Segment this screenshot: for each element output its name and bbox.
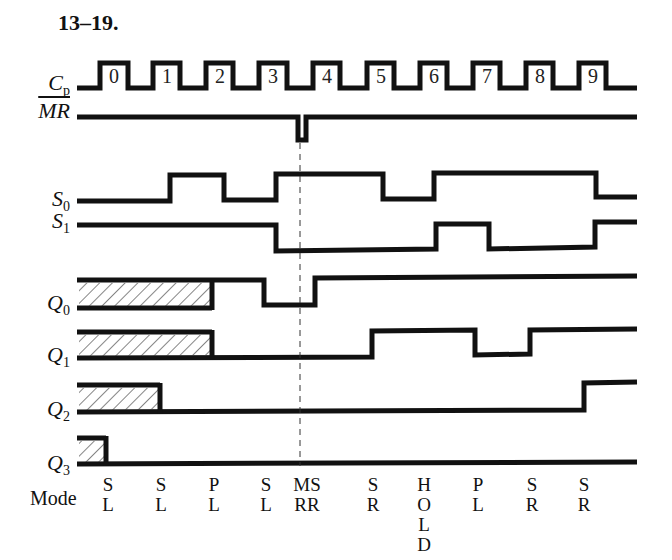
mode-entry-2: PL: [199, 475, 229, 515]
mode-entry-1: SL: [146, 475, 176, 515]
mode-label: Mode: [30, 487, 77, 510]
mode-entry-6: HOLD: [409, 475, 439, 555]
mr-waveform: [77, 117, 637, 140]
clock-pulse-4: 4: [322, 65, 332, 87]
s1-waveform: [77, 222, 637, 251]
clock-pulse-2: 2: [215, 65, 225, 87]
clock-pulse-0: 0: [109, 65, 119, 87]
mode-entry-0: SL: [93, 475, 123, 515]
clock-waveform: [77, 63, 637, 88]
mode-entry-7: PL: [463, 475, 493, 515]
mode-entry-3: SL: [251, 475, 281, 515]
clock-pulse-7: 7: [482, 65, 492, 87]
clock-pulse-9: 9: [588, 65, 598, 87]
clock-pulse-3: 3: [268, 65, 278, 87]
mode-entry-4: MSRR: [292, 475, 322, 515]
s0-waveform: [77, 173, 637, 201]
clock-pulse-6: 6: [429, 65, 439, 87]
mode-entry-9: SR: [569, 475, 599, 515]
clock-pulse-8: 8: [535, 65, 545, 87]
mode-entry-8: SR: [517, 475, 547, 515]
clock-pulse-5: 5: [376, 65, 386, 87]
mode-entry-5: SR: [358, 475, 388, 515]
clock-pulse-1: 1: [162, 65, 172, 87]
